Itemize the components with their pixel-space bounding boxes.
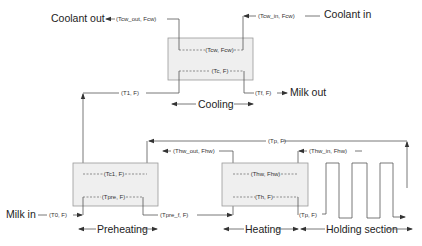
coolant-out-label: Coolant out — [51, 12, 105, 24]
process-flow-diagram: (Tcw, Fcw) (Tc, F) Coolant out (Tcw_out,… — [0, 0, 422, 246]
holding-tube — [322, 163, 405, 218]
preheating-inner-bottom-label: (Tpre, F) — [102, 194, 125, 200]
cooling-label: Cooling — [198, 98, 234, 110]
cooling-unit: (Tcw, Fcw) (Tc, F) — [168, 38, 253, 80]
stream-t1-label: (T1, F) — [121, 90, 139, 96]
milk-out-label: Milk out — [290, 86, 326, 98]
stream-tf-label: (Tf, F) — [255, 90, 271, 96]
stream-tcw-in-label: (Tcw_in, Fcw) — [258, 13, 295, 19]
milk-in-label: Milk in — [6, 208, 36, 220]
coolant-in-label: Coolant in — [324, 8, 371, 20]
stream-tp-bottom-label: (Tp, F) — [299, 212, 317, 218]
heating-inner-bottom-label: (Th, F) — [255, 194, 273, 200]
cooling-box — [168, 38, 253, 80]
heating-label: Heating — [245, 223, 281, 235]
cooling-inner-bottom-label: (Tc, F) — [212, 68, 229, 74]
stream-thw-in-label: (Thw_in, Fhw) — [309, 148, 347, 154]
stream-tpre-f-label: (Tpre_f, F) — [160, 212, 188, 218]
stream-tp-top-label: (Tp, F) — [268, 138, 286, 144]
cooling-inner-top-label: (Tcw, Fcw) — [205, 47, 233, 53]
stream-t0-label: (T0, F) — [49, 212, 67, 218]
heating-inner-top-label: (Thw, Fhw) — [251, 171, 281, 177]
stream-thw-out-label: (Thw_out, Fhw) — [173, 148, 215, 154]
preheating-unit: (Tc1, F) (Tpre, F) — [73, 163, 158, 206]
stream-tcw-out-label: (Tcw_out, Fcw) — [116, 16, 156, 22]
heating-unit: (Thw, Fhw) (Th, F) — [222, 163, 308, 206]
preheating-inner-top-label: (Tc1, F) — [104, 171, 124, 177]
